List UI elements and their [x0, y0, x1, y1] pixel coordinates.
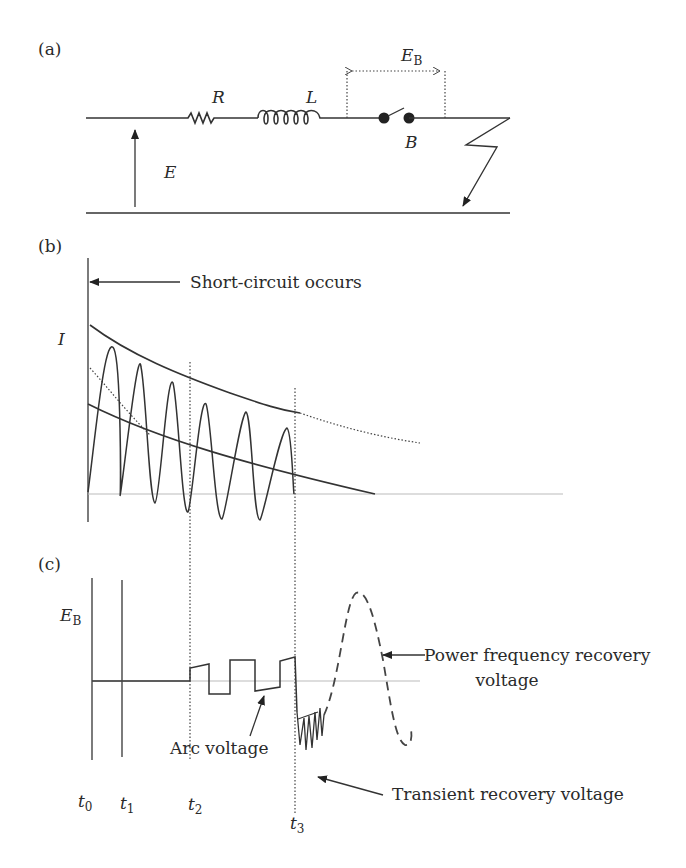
panel-c-voltage: (c) EB Arc voltage Power frequency recov…: [38, 554, 651, 836]
arc-voltage-trace: [92, 657, 297, 712]
panel-a-circuit: (a) EB R L B E: [38, 39, 510, 213]
eb-bracket-legs: [347, 71, 445, 118]
power-frequency-recovery-waveform: [324, 592, 411, 745]
current-axis-label: I: [57, 329, 65, 349]
power-frequency-annotation-line2: voltage: [474, 670, 538, 690]
transient-recovery-arrow: [318, 777, 383, 795]
breaker-contact-left: [379, 113, 390, 124]
eb-label: EB: [400, 45, 422, 68]
panel-c-label: (c): [38, 554, 61, 574]
fault-lightning-icon: [463, 118, 510, 206]
panel-a-label: (a): [38, 39, 61, 59]
voltage-axis-label: EB: [59, 605, 81, 628]
short-circuit-annotation: Short-circuit occurs: [190, 272, 362, 292]
upper-envelope: [90, 325, 300, 413]
resistor-symbol: [183, 113, 220, 123]
inductor-label: L: [305, 87, 317, 107]
power-frequency-annotation-line1: Power frequency recovery: [424, 645, 651, 665]
transient-recovery-annotation: Transient recovery voltage: [392, 784, 624, 804]
panel-b-current: (b) I Short-circuit occurs: [38, 236, 563, 815]
breaker-label: B: [404, 132, 418, 152]
source-voltage-label: E: [163, 162, 177, 182]
circuit-breaker-diagram: (a) EB R L B E (b) I: [0, 0, 686, 868]
panel-b-label: (b): [38, 236, 62, 256]
t2-label: t2: [188, 794, 202, 817]
t0-label: t0: [78, 791, 92, 814]
upper-envelope-extension: [300, 413, 420, 443]
resistor-label: R: [211, 87, 225, 107]
t3-label: t3: [290, 813, 304, 836]
arc-voltage-arrow: [250, 696, 264, 736]
arc-voltage-annotation: Arc voltage: [169, 738, 269, 758]
t1-label: t1: [120, 793, 134, 816]
inductor-symbol: [258, 111, 323, 125]
breaker-switch-blade: [388, 108, 404, 116]
